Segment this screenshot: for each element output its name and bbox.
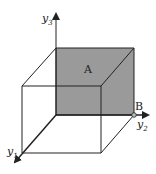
y1-axis-label: y1 [6, 145, 18, 160]
point-b-marker [132, 113, 137, 118]
edge-top-left [22, 48, 56, 86]
shaded-face-a [56, 48, 134, 115]
cube-diagram: A B y3 y2 y1 [0, 0, 156, 174]
y1-axis [15, 115, 56, 162]
y3-axis-label: y3 [41, 12, 53, 27]
y2-axis-label: y2 [136, 118, 148, 133]
edge-bottom-right [101, 115, 134, 153]
point-label-b: B [135, 100, 143, 113]
diagram-svg: A B y3 y2 y1 [0, 0, 156, 174]
face-label-a: A [83, 63, 93, 76]
